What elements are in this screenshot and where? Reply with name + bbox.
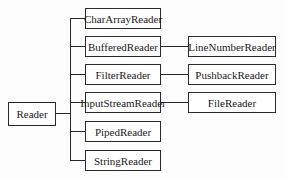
node-filereader: FileReader bbox=[188, 92, 276, 113]
node-bufferedreader: BufferedReader bbox=[85, 36, 161, 57]
node-chararrayreader: CharArrayReader bbox=[85, 8, 161, 29]
connector-to-bufferedreader bbox=[70, 46, 85, 47]
connector-to-stringreader bbox=[70, 160, 85, 161]
node-reader: Reader bbox=[8, 102, 56, 126]
connector-trunk bbox=[70, 18, 71, 161]
connector-to-filterreader bbox=[70, 74, 85, 75]
connector-buffered-to-linenumber bbox=[160, 46, 188, 47]
node-filterreader: FilterReader bbox=[85, 64, 161, 85]
reader-class-hierarchy-diagram: Reader CharArrayReader BufferedReader Fi… bbox=[0, 0, 285, 179]
node-inputstreamreader: InputStreamReader bbox=[85, 92, 161, 113]
connector-to-chararrayreader bbox=[70, 18, 85, 19]
connector-root-to-trunk bbox=[56, 113, 70, 114]
node-stringreader: StringReader bbox=[85, 150, 161, 171]
connector-filter-to-pushback bbox=[160, 74, 188, 75]
node-pipedreader: PipedReader bbox=[85, 121, 161, 142]
node-linenumberreader: LineNumberReader bbox=[188, 36, 276, 57]
connector-to-pipedreader bbox=[70, 131, 85, 132]
node-pushbackreader: PushbackReader bbox=[188, 64, 276, 85]
